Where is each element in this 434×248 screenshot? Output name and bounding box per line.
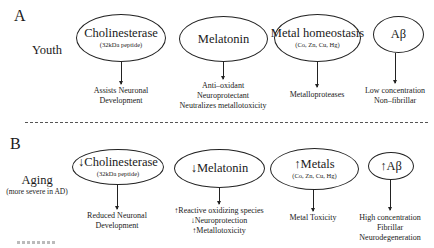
node-title: Metal homeostasis [271,27,364,40]
effect-melatonin-youth: Anti–oxidant Neuroprotectant Neutralizes… [180,81,267,111]
youth-row-label: Youth [22,44,72,57]
panel-divider [25,122,428,123]
figure-caption-fragment [17,241,57,244]
effect-line: Development [87,221,147,231]
effect-metals-aging: Metal Toxicity [289,213,336,223]
node-subtitle: (Co, Zn, Cu, Hg) [295,41,339,49]
arrow-down-icon [395,53,396,83]
arrow-down-icon [223,62,224,79]
effect-abeta-aging: High concentration Fibrillar Neurodegene… [359,213,421,243]
node-melatonin-aging: ↓Melatonin [174,149,265,188]
node-title: ↑Metals [294,158,334,171]
effect-line: Non–fibrillar [365,96,425,106]
effect-line: Low concentration [365,86,425,96]
arrow-down-icon [317,62,318,87]
effect-line: Metal Toxicity [289,213,336,223]
aging-label-text: Aging [21,173,52,187]
effect-line: Reduced Neuronal [87,211,147,221]
panel-a-label: A [14,8,26,24]
aging-sublabel-text: (more severe in AD) [4,187,70,196]
arrow-down-icon [313,190,314,211]
node-abeta-aging: ↑Aβ [368,152,414,180]
node-cholinesterase-youth: Cholinesterase (32kDa peptide) [76,14,166,62]
effect-line: Neurodegeneration [359,233,421,243]
arrow-down-icon [117,185,118,209]
arrow-down-icon [390,180,391,210]
node-title: ↓Cholinesterase [78,156,158,169]
node-melatonin-youth: Melatonin [179,16,268,62]
effect-cholinesterase-youth: Assists Neuronal Development [94,86,148,106]
youth-label-text: Youth [32,43,62,57]
aging-row-label: Aging (more severe in AD) [4,174,70,196]
effect-line: High concentration [359,213,421,223]
effect-line: Neutralizes metallotoxicity [180,101,267,111]
effect-line: ↓Neuroprotection [174,216,263,226]
arrow-down-icon [121,62,122,84]
effect-abeta-youth: Low concentration Non–fibrillar [365,86,425,106]
node-subtitle: (32kDa peptide) [97,170,139,178]
node-cholinesterase-aging: ↓Cholinesterase (32kDa peptide) [72,149,164,185]
node-metal-homeostasis-youth: Metal homeostasis (Co, Zn, Cu, Hg) [274,14,361,62]
node-title: Aβ [391,28,406,41]
arrow-down-icon [219,188,220,204]
node-abeta-youth: Aβ [373,16,424,53]
effect-melatonin-aging: ↑Reactive oxidizing species ↓Neuroprotec… [174,206,263,236]
node-title: Melatonin [198,33,249,46]
node-subtitle: (32kDa peptide) [100,41,142,49]
effect-line: Anti–oxidant [180,81,267,91]
effect-line: ↑Reactive oxidizing species [174,206,263,216]
effect-line: Neuroprotectant [180,91,267,101]
effect-cholinesterase-aging: Reduced Neuronal Development [87,211,147,231]
node-metals-aging: ↑Metals (Co, Zn, Cu, Hg) [270,148,359,190]
effect-line: Metalloproteases [290,90,345,100]
effect-line: Fibrillar [359,223,421,233]
effect-line: ↑Metallotoxicity [174,226,263,236]
node-title: ↓Melatonin [191,162,249,175]
panel-b-label: B [10,136,21,152]
node-subtitle: (Co, Zn, Cu, Hg) [292,172,336,180]
node-title: Cholinesterase [84,27,158,40]
effect-line: Development [94,96,148,106]
node-title: ↑Aβ [380,160,402,173]
effect-line: Assists Neuronal [94,86,148,96]
effect-metal-homeostasis-youth: Metalloproteases [290,90,345,100]
